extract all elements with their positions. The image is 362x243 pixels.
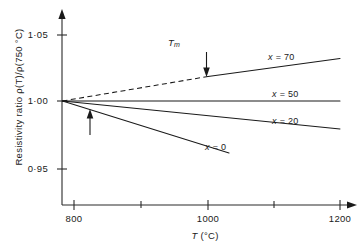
tm-arrow-head (203, 68, 210, 78)
curve-label-x20-value: = 20 (280, 116, 299, 126)
curve-label-x20-var: x (272, 116, 277, 126)
y-axis-arrowhead (58, 9, 65, 19)
y-tick-label-0-95: 0·95 (22, 164, 48, 174)
x-axis-title-unit: (°C) (200, 230, 218, 241)
y-axis-title: Resistivity ratio ρ(T)/ρ(750 °C) (14, 0, 24, 197)
curve-label-x20: x = 20 (272, 117, 299, 126)
curve-label-x50: x = 50 (272, 90, 299, 99)
curve-label-x70: x = 70 (268, 53, 295, 62)
x-axis-title: T (°C) (160, 231, 250, 241)
curve-label-x0-value: = 0 (213, 142, 227, 152)
y-tick-label-1-00: 1·00 (22, 96, 48, 106)
melting-point-label: Tm (168, 38, 180, 48)
resistivity-ratio-chart-figure: 1·05 1·00 0·95 800 1000 1200 T (°C) Resi… (0, 0, 362, 243)
curve-label-x50-var: x (272, 89, 277, 99)
melting-point-subscript: m (174, 41, 180, 48)
curve-label-x50-value: = 50 (280, 89, 299, 99)
x-axis-arrowhead (347, 201, 357, 208)
x-tick-label-800: 800 (54, 214, 94, 224)
curve-label-x0-var: x (205, 142, 210, 152)
series-x70-dashed-segment (63, 77, 209, 102)
y-tick-label-1-05: 1·05 (22, 30, 48, 40)
x-tick-label-1000: 1000 (188, 214, 228, 224)
data-series-group (63, 59, 341, 154)
curve-label-x0: x = 0 (205, 143, 226, 152)
curve-label-x70-var: x (268, 52, 273, 62)
plot-canvas (0, 0, 362, 243)
x-tick-label-1200: 1200 (320, 214, 360, 224)
curve-label-x70-value: = 70 (276, 52, 295, 62)
axes-group (57, 9, 357, 210)
